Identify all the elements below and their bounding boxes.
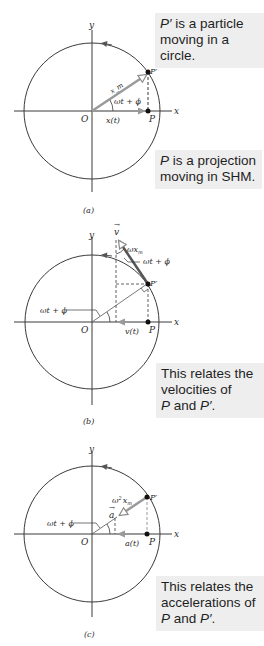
figure-canvas: y x O P′ P x_m ωt + ϕ x(t) (a) y x O P′ … (0, 0, 264, 646)
note-line: P′ is a particle (160, 16, 262, 32)
caption-a: (a) (83, 206, 94, 215)
note-projection-shm: P is a projection moving in SHM. (155, 150, 262, 189)
vector-v-arrow-glyph: → (114, 221, 120, 229)
panel-c: y x O P′ P a → ω2xm ωt + ϕ a(t) (c) (14, 444, 179, 639)
note-line: P and P′. (161, 398, 261, 414)
origin-label: O (81, 325, 89, 335)
note-velocities: This relates the velocities of P and P′. (156, 363, 264, 418)
angle-label: ωt + ϕ (114, 97, 142, 106)
y-axis-label: y (88, 444, 95, 454)
y-axis-label: y (88, 20, 95, 30)
angle-arc (107, 524, 110, 534)
caption-c: (c) (84, 630, 95, 639)
p-label: P (148, 114, 156, 124)
projection-label: v(t) (125, 327, 139, 336)
angle-label-top: ωt + ϕ (143, 257, 171, 266)
shm-figure: y x O P′ P x_m ωt + ϕ x(t) (a) y x O P′ … (0, 0, 264, 646)
note-accelerations: This relates the accelerations of P and … (156, 576, 264, 631)
panel-b: y x O P′ P v → ωxm ωt + ϕ ωt + ϕ v(t) (b… (14, 221, 179, 426)
point-p-prime (145, 495, 150, 500)
note-line: This relates the (161, 366, 261, 382)
x-axis-label: x (174, 529, 179, 539)
note-line: P and P′. (161, 611, 261, 627)
caption-b: (b) (83, 417, 94, 426)
angle-leader-left (66, 310, 100, 316)
note-line: P is a projection (160, 153, 258, 169)
radius-line (92, 284, 147, 322)
note-line: moving in SHM. (160, 169, 258, 185)
projection-label: a(t) (125, 539, 139, 548)
note-line: moving in a circle. (160, 32, 262, 64)
y-axis-label: y (88, 230, 95, 240)
angle-arc (110, 100, 113, 111)
angle-leader-left (74, 523, 100, 528)
magnitude-label: ωxm (127, 245, 143, 255)
magnitude-label: ω2xm (112, 495, 132, 506)
angle-label-left: ωt + ϕ (47, 519, 75, 528)
p-prime-label: P′ (149, 493, 157, 502)
p-label: P (148, 537, 156, 547)
note-particle-circle: P′ is a particle moving in a circle. (155, 13, 264, 68)
angle-arc-tip (116, 249, 124, 254)
note-line: This relates the (161, 579, 261, 595)
angle-arc-origin (107, 312, 110, 322)
projection-label: x(t) (106, 116, 120, 125)
x-axis-label: x (174, 317, 179, 327)
right-angle-mark (141, 288, 148, 292)
x-axis-label: x (174, 106, 179, 116)
p-prime-label: P′ (149, 279, 157, 288)
p-prime-label: P′ (149, 67, 157, 76)
note-line: velocities of (161, 382, 261, 398)
origin-label: O (81, 114, 89, 124)
note-line: accelerations of (161, 595, 261, 611)
point-p (145, 532, 150, 537)
vector-a-arrow-glyph: → (109, 504, 115, 512)
origin-label: O (81, 537, 89, 547)
p-label: P (148, 325, 156, 335)
point-p (146, 320, 151, 325)
point-p (146, 109, 151, 114)
angle-label-left: ωt + ϕ (40, 306, 68, 315)
